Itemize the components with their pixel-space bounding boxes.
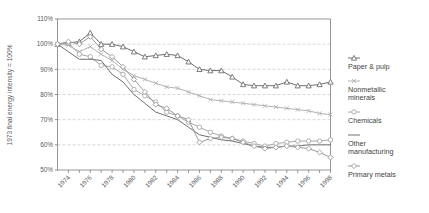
legend-item-nonmetallic-minerals[interactable]: Nonmetallicminerals [348, 79, 386, 102]
x-tick-label: 1980 [122, 173, 137, 188]
x-tick-label: 1978 [100, 173, 115, 188]
data-point-circle [121, 72, 125, 76]
data-point-circle [110, 65, 114, 69]
data-point-triangle [186, 59, 191, 64]
y-tick-label: 90% [40, 66, 53, 73]
data-point-circle [99, 63, 103, 67]
energy-intensity-chart: 110%100%90%80%70%60%50% 1974197619781980… [0, 0, 429, 213]
y-tick-label: 80% [40, 91, 53, 98]
legend-label: manufacturing [348, 147, 394, 156]
data-point-circle [77, 52, 81, 56]
y-tick-label: 60% [40, 141, 53, 148]
data-point-triangle [131, 49, 136, 54]
series-path [58, 33, 331, 86]
data-point-circle [296, 139, 300, 143]
x-tick-label: 1986 [187, 173, 202, 188]
x-tick-label: 1998 [318, 173, 333, 188]
data-point-cross [99, 52, 103, 56]
y-tick-label: 100% [37, 40, 54, 47]
series-path [58, 44, 331, 114]
y-tick-label: 50% [40, 166, 53, 173]
series-primary-metals [55, 34, 333, 160]
x-tick-label: 1976 [78, 173, 93, 188]
legend-label: minerals [348, 93, 376, 102]
x-tick-label: 1988 [209, 173, 224, 188]
series-path [58, 37, 331, 158]
data-point-triangle [328, 79, 333, 84]
data-point-cross [88, 45, 92, 49]
x-tick-label: 1996 [296, 173, 311, 188]
data-point-diamond [273, 145, 278, 150]
y-tick-label: 110% [37, 15, 53, 22]
data-series-group [55, 30, 333, 160]
data-point-diamond [306, 146, 311, 151]
y-tick-label: 70% [40, 116, 53, 123]
data-point-circle [328, 138, 332, 142]
x-axis-labels: 1974197619781980198219841986198819901992… [56, 173, 333, 188]
y-axis-title: 1973 final energy intensity = 100% [6, 44, 14, 145]
data-point-diamond [197, 140, 202, 145]
y-axis-labels: 110%100%90%80%70%60%50% [37, 15, 54, 173]
x-tick-label: 1982 [143, 173, 158, 188]
data-point-diamond [284, 143, 289, 148]
legend-label: Chemicals [348, 116, 382, 125]
legend-label: Paper & pulp [348, 62, 390, 71]
data-point-circle [317, 139, 321, 143]
data-point-circle [197, 125, 201, 129]
legend-item-chemicals[interactable]: Chemicals [348, 110, 382, 125]
series-paper-pulp [55, 30, 333, 88]
data-point-circle [88, 55, 92, 59]
x-tick-label: 1994 [275, 173, 290, 188]
x-tick-label: 1992 [253, 173, 268, 188]
series-nonmetallic-minerals [55, 42, 332, 117]
legend-label: Primary metals [348, 170, 396, 179]
data-point-triangle [284, 79, 289, 84]
data-point-diamond [317, 150, 322, 155]
x-tick-label: 1990 [231, 173, 246, 188]
data-point-triangle [230, 74, 235, 79]
legend-item-primary-metals[interactable]: Primary metals [348, 163, 396, 178]
data-point-circle [352, 110, 356, 114]
legend: Paper & pulpNonmetallicmineralsChemicals… [348, 55, 396, 178]
data-point-circle [208, 130, 212, 134]
x-tick-label: 1984 [165, 173, 180, 188]
legend-item-other-manufacturing[interactable]: Othermanufacturing [348, 135, 394, 156]
legend-item-paper-pulp[interactable]: Paper & pulp [348, 55, 390, 70]
data-point-diamond [328, 155, 333, 160]
data-point-diamond [351, 163, 356, 168]
data-point-circle [306, 139, 310, 143]
grid-lines [58, 44, 331, 145]
chart-svg: 110%100%90%80%70%60%50% 1974197619781980… [0, 0, 429, 213]
x-tick-label: 1974 [56, 173, 71, 188]
data-point-circle [132, 87, 136, 91]
